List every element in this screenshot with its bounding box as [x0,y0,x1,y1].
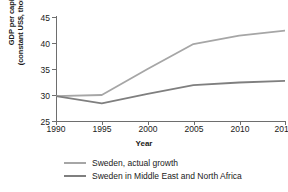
plot-area [56,17,285,121]
y-tick-label-40: 40 [10,39,50,49]
x-tick-label-1990: 1990 [36,124,76,134]
legend-swatch-actual-growth [64,162,86,164]
y-tick-label-30: 30 [10,91,50,101]
y-axis-title-line2: (constant US$, thousands) [16,0,26,65]
legend-label-actual-growth: Sweden, actual growth [92,158,178,168]
x-tick-label-2000: 2000 [128,124,168,134]
x-axis-line [56,121,286,122]
x-tick-label-1995: 1995 [82,124,122,134]
x-axis-title: Year [0,139,288,148]
x-tick-label-2005: 2005 [174,124,214,134]
y-tick-label-35: 35 [10,65,50,75]
legend-label-mena: Sweden in Middle East and North Africa [92,171,242,181]
chart-container: GDP per capita (constant US$, thousands)… [0,0,288,192]
series-line-0 [56,31,285,97]
x-tick-label-2010: 2010 [220,124,260,134]
legend-item-mena: Sweden in Middle East and North Africa [64,171,288,181]
legend-item-actual-growth: Sweden, actual growth [64,158,288,168]
legend-swatch-mena [64,175,86,177]
chart-legend: Sweden, actual growth Sweden in Middle E… [64,158,288,181]
x-tick-label-2015: 2015 [264,124,288,134]
y-tick-label-45: 45 [10,13,50,23]
series-line-1 [56,81,285,103]
